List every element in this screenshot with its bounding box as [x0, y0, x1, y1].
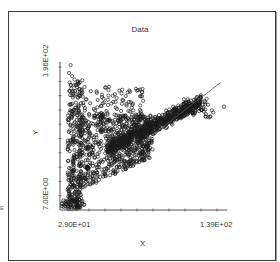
y-min-tick-label: 7.00E+00 [41, 178, 50, 210]
side-mark: E [0, 205, 4, 211]
x-axis-label: X [140, 239, 145, 248]
x-max-tick-label: 1.39E+02 [200, 220, 232, 229]
y-max-tick-label: 1.96E+02 [41, 45, 50, 77]
y-axis-label: Y [31, 130, 40, 135]
scatter-points [60, 64, 225, 211]
x-min-tick-label: 2.90E+01 [58, 220, 90, 229]
